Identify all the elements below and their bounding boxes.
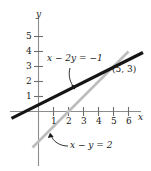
x-tick-label-6: 6 — [126, 117, 132, 126]
y-tick-label-2: 2 — [26, 77, 32, 86]
y-axis-label: y — [36, 10, 41, 19]
x-tick-label-4: 4 — [96, 117, 102, 126]
y-tick-label-1: 1 — [26, 92, 32, 101]
equation-label-line2: x − y = 2 — [70, 141, 112, 150]
graph-figure: y x 1 2 3 4 5 1 2 3 4 5 6 x − 2y = −1 x … — [0, 0, 151, 171]
x-tick-label-2: 2 — [66, 117, 72, 126]
intersection-point-label: (5, 3) — [112, 65, 136, 74]
annotation-arrow-lower — [48, 133, 68, 146]
x-tick-label-5: 5 — [111, 117, 117, 126]
y-tick-label-4: 4 — [26, 47, 32, 56]
y-tick-label-3: 3 — [26, 62, 32, 71]
x-tick-label-3: 3 — [81, 117, 87, 126]
equation-label-line1: x − 2y = −1 — [47, 54, 103, 63]
annotation-arrow-upper — [69, 68, 77, 90]
x-tick-label-1: 1 — [51, 117, 57, 126]
y-tick-label-5: 5 — [26, 32, 32, 41]
x-axis-label: x — [138, 113, 143, 122]
